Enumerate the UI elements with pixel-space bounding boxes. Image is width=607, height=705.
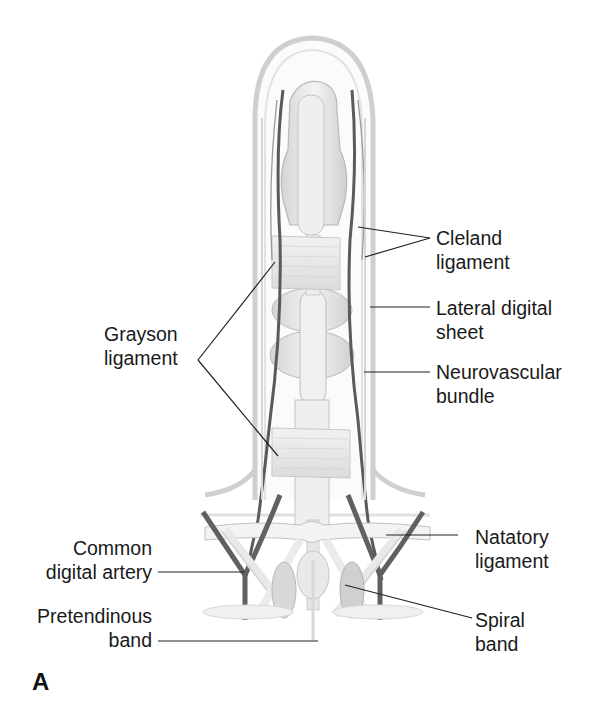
finger-anatomy-illustration xyxy=(0,0,607,705)
label-lateral-digital-sheet: Lateral digital sheet xyxy=(436,296,552,344)
label-natatory-ligament: Natatory ligament xyxy=(475,525,549,573)
label-lateral-digital-line1: Lateral digital xyxy=(436,296,552,320)
label-neurovascular-bundle: Neurovascular bundle xyxy=(436,360,562,408)
label-grayson-ligament: Grayson ligament xyxy=(104,322,178,370)
label-natatory-line1: Natatory xyxy=(475,525,549,549)
label-cleland-line1: Cleland xyxy=(436,226,510,250)
label-grayson-line1: Grayson xyxy=(104,322,178,346)
panel-letter: A xyxy=(32,668,49,696)
label-spiral-line1: Spiral xyxy=(475,608,525,632)
label-common-digital-line2: digital artery xyxy=(46,560,152,584)
label-pretendinous-line2: band xyxy=(37,628,152,652)
label-pretendinous-line1: Pretendinous xyxy=(37,604,152,628)
label-grayson-line2: ligament xyxy=(104,346,178,370)
label-pretendinous-band: Pretendinous band xyxy=(37,604,152,652)
label-cleland-ligament: Cleland ligament xyxy=(436,226,510,274)
label-common-digital-artery: Common digital artery xyxy=(46,536,152,584)
label-neurovascular-line1: Neurovascular xyxy=(436,360,562,384)
label-spiral-band: Spiral band xyxy=(475,608,525,656)
label-natatory-line2: ligament xyxy=(475,549,549,573)
label-common-digital-line1: Common xyxy=(46,536,152,560)
label-neurovascular-line2: bundle xyxy=(436,384,562,408)
label-lateral-digital-line2: sheet xyxy=(436,320,552,344)
label-cleland-line2: ligament xyxy=(436,250,510,274)
label-spiral-line2: band xyxy=(475,632,525,656)
